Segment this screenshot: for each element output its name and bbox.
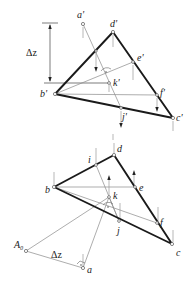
point-a-elevation [81, 22, 84, 25]
point-f-plan [156, 222, 159, 225]
descriptive-geometry-diagram: Δz a' d' b' [0, 0, 195, 290]
point-i-plan [95, 164, 98, 167]
point-e-plan [134, 186, 137, 189]
label-b-elevation: b' [40, 88, 48, 99]
dz-arrow-bottom [48, 77, 51, 82]
label-f-plan: f [160, 217, 164, 228]
label-d-plan: d [117, 143, 123, 154]
arrow-i-elevation [94, 67, 97, 72]
label-c-elevation: c' [176, 112, 183, 123]
label-k-plan: k [113, 190, 118, 201]
label-d-elevation: d' [110, 18, 118, 29]
label-j-elevation: j' [120, 111, 128, 122]
arrow-e-plan [132, 170, 135, 175]
point-e-elevation [132, 61, 135, 64]
line-b-e-elevation [55, 62, 133, 94]
label-i-plan: i [88, 154, 91, 165]
point-j-elevation [120, 107, 123, 110]
right-angle-dot-elevation [105, 71, 106, 72]
label-k-elevation: k' [113, 77, 120, 88]
plan-view: d i b e k j f c A₀ a Δz [13, 143, 181, 275]
line-k-A0-plan [26, 197, 109, 251]
point-c-elevation [171, 116, 174, 119]
dz-dimension-elevation: Δz [26, 23, 109, 83]
right-angle-dot-plan-a [80, 264, 81, 265]
arrow-f-elevation [155, 107, 158, 112]
point-k-elevation [108, 82, 111, 85]
label-A0-plan: A₀ [13, 239, 24, 250]
label-f-elevation: f' [160, 87, 166, 98]
dz-label-elevation: Δz [26, 47, 37, 58]
point-A0-plan [24, 249, 27, 252]
elevation-view: Δz a' d' b' [26, 9, 183, 140]
point-k-plan [108, 196, 111, 199]
point-c-plan [170, 242, 173, 245]
point-d-elevation [111, 30, 114, 33]
dz-arrow-top [48, 24, 51, 29]
arrow-j-elevation [119, 123, 122, 128]
point-d-plan [112, 153, 115, 156]
label-a-plan: a [87, 264, 92, 275]
dz-label-plan: Δz [51, 249, 62, 260]
label-e-elevation: e' [137, 52, 144, 63]
point-b-plan [52, 185, 55, 188]
point-f-elevation [156, 94, 159, 97]
right-angle-dot-plan-k [107, 206, 108, 207]
label-j-plan: j [115, 225, 120, 236]
label-c-plan: c [176, 247, 181, 258]
label-b-plan: b [45, 184, 50, 195]
label-a-elevation: a' [77, 9, 85, 20]
point-j-plan [118, 220, 121, 223]
point-a-plan [81, 266, 84, 269]
arrow-k-plan [107, 175, 110, 180]
triangle-bcd-elevation [55, 32, 173, 118]
point-i-elevation [95, 50, 97, 52]
right-angle-mark-elevation [101, 68, 111, 71]
right-angle-mark-plan-a [77, 261, 85, 264]
label-e-plan: e [139, 182, 144, 193]
line-b-f-elevation [55, 94, 157, 95]
point-b-elevation [53, 92, 56, 95]
